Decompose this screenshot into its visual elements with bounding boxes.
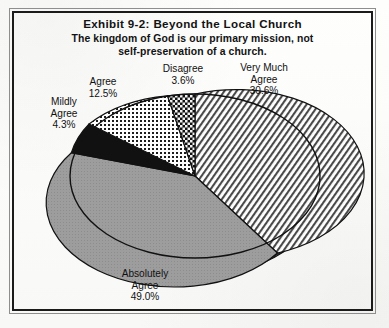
slice-label-absolutely-agree-line-1: Absolutely (98, 268, 192, 280)
slice-label-disagree-line-1: Disagree (152, 63, 214, 75)
slice-label-agree-line-1: Agree (75, 76, 131, 88)
slice-value-mildly-agree: 4.3% (35, 119, 93, 131)
slice-label-very-much-agree-line-1: Very Much (228, 62, 300, 74)
slice-label-very-much-agree-line-2: Agree (228, 74, 300, 86)
slice-label-absolutely-agree-line-2: Agree (98, 280, 192, 292)
slice-label-absolutely-agree: Absolutely Agree 49.0% (98, 268, 192, 303)
slice-label-mildly-agree-line-2: Agree (35, 108, 93, 120)
slice-value-very-much-agree: 30.6% (228, 85, 300, 97)
slice-value-absolutely-agree: 49.0% (98, 291, 192, 303)
slice-label-mildly-agree: Mildly Agree 4.3% (35, 96, 93, 131)
slice-label-mildly-agree-line-1: Mildly (35, 96, 93, 108)
slice-label-very-much-agree: Very Much Agree 30.6% (228, 62, 300, 97)
slice-value-disagree: 3.6% (152, 75, 214, 87)
slice-label-disagree: Disagree 3.6% (152, 63, 214, 86)
exhibit-figure: Exhibit 9-2: Beyond the Local Church The… (0, 0, 389, 328)
pie-chart (0, 0, 389, 328)
